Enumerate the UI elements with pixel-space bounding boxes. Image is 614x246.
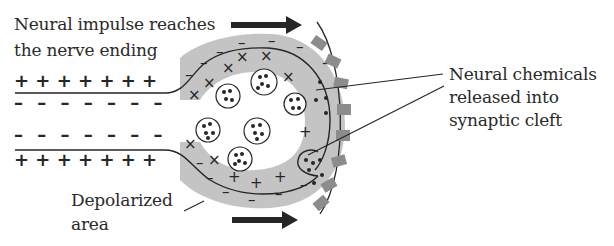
impulse-arrow-top [231, 16, 302, 34]
svg-text:×: × [222, 59, 235, 77]
svg-text:×: × [260, 47, 273, 65]
svg-text:+: + [274, 168, 287, 186]
impulse-label-line1: Neural impulse reaches [14, 12, 215, 36]
resting-charges: + + + + + + + – – – – – – – – – – – – – … [14, 70, 167, 170]
svg-text:+: + [250, 174, 263, 192]
svg-text:–: – [185, 66, 193, 84]
svg-text:+ + + + + + +: + + + + + + + [14, 149, 157, 170]
impulse-label-line2: the nerve ending [14, 38, 157, 62]
svg-text:–: – [300, 176, 308, 194]
svg-text:+: + [299, 123, 312, 141]
nerve-ending-diagram: + + + + + + + – – – – – – – – – – – – – … [0, 0, 614, 246]
svg-text:×: × [188, 86, 201, 104]
svg-text:–: – [200, 54, 208, 72]
depolarized-label-line2: area [71, 212, 109, 236]
svg-text:– – – – – – –: – – – – – – – [14, 92, 167, 113]
svg-text:×: × [236, 48, 249, 66]
svg-text:×: × [208, 151, 221, 169]
svg-text:–: – [222, 183, 230, 201]
svg-text:×: × [203, 74, 216, 92]
depolarized-label-line1: Depolarized [71, 188, 173, 212]
impulse-arrow-bottom [232, 211, 298, 229]
svg-text:–: – [275, 185, 283, 203]
svg-text:+ + + + + + +: + + + + + + + [14, 70, 157, 91]
svg-text:×: × [282, 68, 295, 86]
chemicals-label-line3: synaptic cleft [449, 108, 562, 132]
chemicals-label-line2: released into [449, 85, 559, 109]
svg-text:– – – – – – –: – – – – – – – [14, 124, 167, 145]
svg-text:–: – [206, 169, 214, 187]
svg-text:–: – [196, 154, 204, 172]
chemicals-label-line1: Neural chemicals [449, 62, 597, 86]
svg-text:–: – [248, 191, 256, 209]
svg-text:–: – [296, 38, 304, 56]
svg-text:×: × [184, 135, 197, 153]
